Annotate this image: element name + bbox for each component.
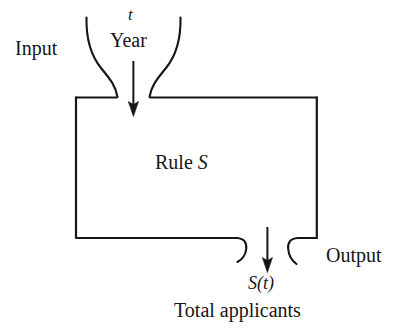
output-spout-right-lip	[288, 238, 317, 264]
rule-label-symbol: S	[198, 151, 208, 173]
input-variable-meaning-label: Year	[110, 30, 147, 50]
funnel-right-curve	[150, 18, 181, 98]
output-meaning-label: Total applicants	[174, 300, 301, 320]
output-label: Output	[326, 245, 382, 265]
function-machine-figure: Input t Year Rule S Output S(t) Total ap…	[0, 0, 400, 336]
input-label: Input	[15, 38, 57, 58]
rule-label-prefix: Rule	[155, 151, 198, 173]
output-spout-left-lip	[237, 238, 246, 262]
output-expression-label: S(t)	[248, 274, 274, 292]
input-variable-label: t	[128, 6, 133, 23]
rule-label: Rule S	[155, 152, 208, 172]
